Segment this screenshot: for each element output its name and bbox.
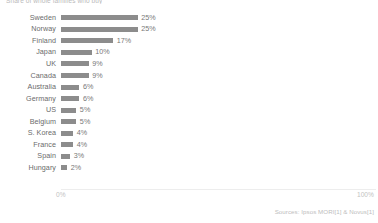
- value-label: 2%: [71, 164, 82, 172]
- value-label: 3%: [74, 152, 85, 160]
- bar-row: Spain 3%: [0, 151, 378, 163]
- bar[interactable]: [61, 154, 70, 159]
- category-label: S. Korea: [0, 129, 56, 137]
- bar-row: Finland 17%: [0, 35, 378, 47]
- category-label: Japan: [0, 48, 56, 56]
- bar-track: 2%: [61, 162, 370, 174]
- bar-track: 9%: [61, 58, 370, 70]
- bar-row: Canada 9%: [0, 70, 378, 82]
- value-label: 9%: [92, 60, 103, 68]
- bar[interactable]: [61, 119, 76, 124]
- bar-track: 3%: [61, 151, 370, 163]
- bar-track: 17%: [61, 35, 370, 47]
- bar-track: 4%: [61, 127, 370, 139]
- bar-row: S. Korea 4%: [0, 127, 378, 139]
- bar-track: 6%: [61, 81, 370, 93]
- bar-chart: Share of whole families who buy Sweden 2…: [0, 0, 378, 223]
- category-label: Australia: [0, 83, 56, 91]
- bar-row: US 5%: [0, 104, 378, 116]
- bar-track: 25%: [61, 12, 370, 24]
- category-label: Hungary: [0, 164, 56, 172]
- x-axis-line: [61, 189, 376, 190]
- bar-track: 9%: [61, 70, 370, 82]
- category-label: Norway: [0, 25, 56, 33]
- bar-row: Norway 25%: [0, 24, 378, 36]
- bar-row: Hungary 2%: [0, 162, 378, 174]
- bar[interactable]: [61, 96, 79, 101]
- category-label: Canada: [0, 72, 56, 80]
- category-label: Germany: [0, 95, 56, 103]
- bar[interactable]: [61, 61, 89, 66]
- category-label: US: [0, 106, 56, 114]
- value-label: 6%: [83, 83, 94, 91]
- value-label: 10%: [95, 48, 110, 56]
- bar[interactable]: [61, 85, 79, 90]
- bar[interactable]: [61, 108, 76, 113]
- bar-row: Australia 6%: [0, 81, 378, 93]
- category-label: Finland: [0, 37, 56, 45]
- value-label: 25%: [141, 14, 156, 22]
- chart-title: Share of whole families who buy: [6, 0, 102, 4]
- value-label: 6%: [83, 95, 94, 103]
- value-label: 5%: [80, 118, 91, 126]
- bar-track: 5%: [61, 104, 370, 116]
- bar[interactable]: [61, 15, 138, 20]
- bar-row: Sweden 25%: [0, 12, 378, 24]
- bar-track: 25%: [61, 24, 370, 36]
- bar[interactable]: [61, 50, 92, 55]
- value-label: 4%: [77, 129, 88, 137]
- bar-row: Japan 10%: [0, 47, 378, 59]
- bar-row: Belgium 5%: [0, 116, 378, 128]
- bar-row: France 4%: [0, 139, 378, 151]
- value-label: 5%: [80, 106, 91, 114]
- bar-track: 5%: [61, 116, 370, 128]
- value-label: 17%: [117, 37, 132, 45]
- category-label: Spain: [0, 152, 56, 160]
- value-label: 25%: [141, 25, 156, 33]
- category-label: Belgium: [0, 118, 56, 126]
- bar[interactable]: [61, 131, 73, 136]
- category-label: France: [0, 141, 56, 149]
- bar[interactable]: [61, 142, 73, 147]
- value-label: 9%: [92, 72, 103, 80]
- value-label: 4%: [77, 141, 88, 149]
- bar-track: 10%: [61, 47, 370, 59]
- bar[interactable]: [61, 38, 113, 43]
- bar-track: 6%: [61, 93, 370, 105]
- bar-track: 4%: [61, 139, 370, 151]
- bar[interactable]: [61, 73, 89, 78]
- plot-area: Sweden 25% Norway 25% Finland 17% Japan: [0, 12, 378, 188]
- category-label: UK: [0, 60, 56, 68]
- category-label: Sweden: [0, 14, 56, 22]
- bar[interactable]: [61, 27, 138, 32]
- x-axis-tick-max: 100%: [357, 191, 374, 199]
- source-note: Sources: Ipsos MORI[1] & Novus[1]: [275, 208, 374, 216]
- bar[interactable]: [61, 165, 67, 170]
- bar-row: UK 9%: [0, 58, 378, 70]
- bar-row: Germany 6%: [0, 93, 378, 105]
- x-axis-tick-min: 0%: [56, 191, 66, 199]
